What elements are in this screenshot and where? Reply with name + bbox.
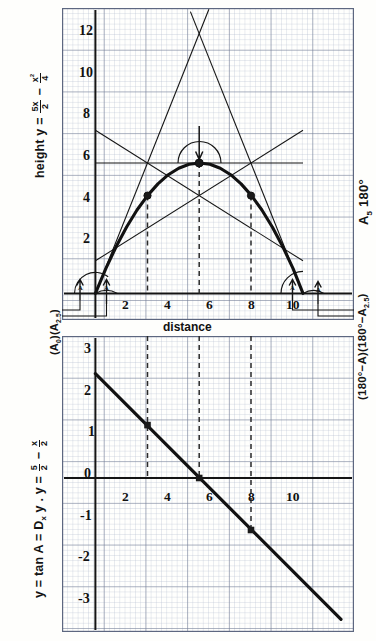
angle-label-a2p5: A [104, 284, 109, 291]
fraction-denominator: 2 [41, 100, 50, 112]
upper-ytick-8: 8 [83, 106, 90, 122]
lower-chart-svg [62, 336, 354, 632]
left-lower-label: (A0)(A2.5) [48, 309, 62, 355]
lower-ytick-2: 2 [84, 383, 91, 399]
right-upper-label: A5 180° [356, 179, 374, 225]
upper-ytick-6: 6 [83, 148, 90, 164]
upper-xtick-6: 6 [206, 297, 213, 313]
left-lower-close: ) [48, 309, 60, 313]
right-lower-label: (180°−A)(180°−A2.5) [356, 293, 371, 400]
lower-marker-x7p5 [248, 527, 255, 534]
lower-y-axis-fraction-2: x 2 [30, 440, 50, 447]
lower-xtick-8: 8 [248, 489, 255, 505]
x-axis-title: distance [163, 320, 212, 334]
upper-ytick-4: 4 [83, 190, 90, 206]
upper-chart [62, 8, 354, 320]
right-upper-subscript: 5 [365, 211, 374, 216]
lower-marker-x5 [196, 475, 203, 482]
right-upper-degrees: 180° [356, 179, 371, 207]
lower-xtick-6: 6 [206, 489, 213, 505]
upper-marker-x5 [195, 159, 203, 167]
upper-chart-svg [62, 8, 354, 320]
upper-xtick-2: 2 [122, 297, 129, 313]
lower-ytick-1: 1 [88, 424, 95, 440]
upper-xtick-8: 8 [248, 297, 255, 313]
upper-y-axis-prefix: height y = [33, 117, 47, 178]
fraction-denominator: 2 [40, 440, 49, 447]
angle-label-a0: A [78, 284, 83, 291]
fraction-denominator: 4 [41, 73, 50, 84]
upper-ytick-2: 2 [83, 231, 90, 247]
lower-ytick-minus3: -3 [78, 591, 90, 607]
left-lower-mid: )(A [48, 323, 60, 339]
lower-y-axis-minus: − [32, 452, 46, 460]
angle-label-a10: A [316, 286, 321, 293]
lower-xtick-10: 10 [286, 489, 300, 505]
upper-y-axis-fraction-1: 5x 2 [31, 100, 51, 112]
upper-xtick-4: 4 [164, 297, 171, 313]
right-upper-a: A [356, 215, 371, 225]
angle-label-a7p5: A [290, 284, 295, 291]
lower-y-axis-prefix: y = tan A = D [32, 521, 46, 598]
lower-chart [62, 336, 354, 632]
fraction-numerator-base: x [30, 77, 40, 82]
lower-ytick-minus1: -1 [80, 508, 92, 524]
lower-xtick-4: 4 [164, 489, 171, 505]
lower-ytick-minus2: -2 [78, 549, 90, 565]
upper-marker-x2p5 [144, 192, 151, 199]
fraction-numerator-exponent: 2 [29, 74, 35, 77]
upper-ytick-12: 12 [79, 23, 93, 39]
upper-marker-x7p5 [247, 192, 254, 199]
lower-ytick-3: 3 [84, 341, 91, 357]
right-lower-open: (180°−A)(180°−A [356, 308, 368, 400]
figure-canvas: height y = 5x 2 − x2 4 y = tan A = Dx y … [0, 0, 376, 641]
upper-y-axis-minus: − [33, 88, 47, 96]
lower-ytick-0: 0 [84, 466, 91, 482]
right-lower-close: ) [356, 293, 368, 297]
lower-xtick-2: 2 [122, 489, 129, 505]
lower-y-axis-prefix-2: y . y = [32, 476, 46, 513]
upper-xtick-10: 10 [286, 297, 300, 313]
upper-ytick-10: 10 [79, 65, 93, 81]
left-lower-open: (A [48, 343, 60, 355]
lower-y-axis-fraction-1: 5 2 [30, 464, 50, 471]
lower-y-axis-prefix-subscript: x [39, 516, 48, 521]
right-lower-subscript: 2.5 [363, 297, 371, 308]
lower-y-axis-label: y = tan A = Dx y . y = 5 2 − x 2 [30, 439, 50, 598]
upper-y-axis-fraction-2: x2 4 [30, 73, 51, 84]
fraction-denominator: 2 [40, 464, 49, 471]
lower-marker-x2p5 [144, 422, 151, 429]
upper-y-axis-label: height y = 5x 2 − x2 4 [30, 72, 51, 178]
